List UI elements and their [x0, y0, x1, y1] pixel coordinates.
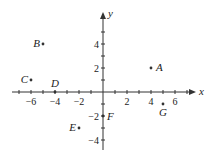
point-dot-icon	[54, 91, 57, 94]
point-label: B	[33, 37, 40, 49]
x-axis-label: x	[198, 85, 204, 97]
x-axis-arrow-icon	[189, 89, 196, 95]
x-tick-label: 4	[149, 96, 154, 107]
x-tick-label: −6	[26, 96, 37, 107]
point-e: E	[68, 121, 80, 133]
y-tick-label: −2	[88, 111, 99, 122]
point-label: F	[106, 110, 114, 122]
point-d: D	[50, 77, 59, 93]
y-tick-label: 2	[94, 63, 99, 74]
y-axis-label: y	[107, 7, 113, 19]
point-dot-icon	[30, 79, 33, 82]
x-tick-label: −2	[74, 96, 85, 107]
y-axis-arrow-icon	[100, 12, 106, 19]
point-label: D	[50, 77, 59, 89]
point-a: A	[150, 61, 163, 73]
point-dot-icon	[150, 67, 153, 70]
point-c: C	[21, 73, 33, 85]
point-dot-icon	[162, 103, 165, 106]
y-tick-label: 4	[94, 39, 99, 50]
point-label: A	[155, 61, 163, 73]
point-dot-icon	[78, 127, 81, 130]
point-g: G	[159, 103, 167, 118]
x-tick-label: 2	[125, 96, 130, 107]
point-dot-icon	[42, 43, 45, 46]
point-dot-icon	[102, 115, 105, 118]
x-tick-label: 6	[173, 96, 178, 107]
point-label: G	[159, 106, 167, 118]
coordinate-plane: −6−4−2246 42−2−4 x y ABCDEFG	[0, 0, 209, 155]
point-label: E	[68, 121, 76, 133]
y-tick-label: −4	[88, 135, 99, 146]
point-label: C	[21, 73, 29, 85]
x-tick-label: −4	[50, 96, 61, 107]
point-b: B	[33, 37, 44, 49]
